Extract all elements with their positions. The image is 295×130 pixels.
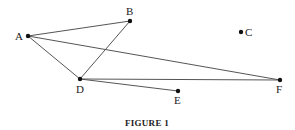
figure-caption: FIGURE 1: [125, 118, 169, 128]
label-a: A: [15, 30, 23, 42]
label-c: C: [245, 26, 252, 38]
point-d: [78, 77, 82, 81]
figure-diagram: A B C D E F FIGURE 1: [0, 0, 295, 130]
point-b: [128, 19, 132, 23]
labels: A B C D E F: [15, 5, 282, 106]
edge-d-e: [80, 79, 178, 91]
edge-a-b: [28, 21, 130, 36]
label-b: B: [126, 5, 133, 17]
point-c: [239, 30, 243, 34]
point-a: [26, 34, 30, 38]
point-e: [176, 89, 180, 93]
label-e: E: [174, 94, 181, 106]
point-f: [278, 78, 282, 82]
label-d: D: [76, 83, 84, 95]
label-f: F: [276, 83, 282, 95]
edge-d-f: [80, 79, 280, 80]
edge-a-f: [28, 36, 280, 80]
points: [26, 19, 282, 93]
edge-b-d: [80, 21, 130, 79]
edge-a-d: [28, 36, 80, 79]
